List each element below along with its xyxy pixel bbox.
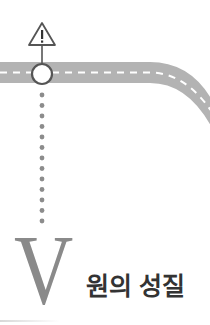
- section-number-letter: V: [14, 220, 73, 320]
- dotted-line: [40, 93, 45, 224]
- marker-circle: [32, 64, 52, 84]
- bottom-rule: [0, 320, 60, 322]
- section-title: 원의 성질: [86, 272, 184, 302]
- warning-triangle-icon: [29, 23, 55, 45]
